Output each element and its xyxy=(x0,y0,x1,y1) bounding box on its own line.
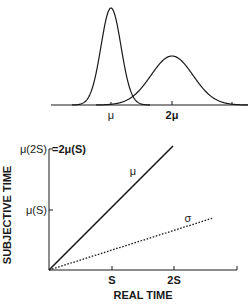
y-axis-label: SUBJECTIVE TIME xyxy=(1,166,13,264)
figure: μ 2μ μ σ μ(2S) =2μ(S) μ(S) S 2S REAL TIM… xyxy=(0,0,248,304)
sd-line xyxy=(49,218,213,270)
wide-gaussian-curve xyxy=(96,56,248,105)
x-tick-label-2s: 2S xyxy=(167,274,180,286)
mean-line-label: μ xyxy=(130,165,136,177)
bottom-panel: μ σ μ(2S) =2μ(S) μ(S) S 2S REAL TIME SUB… xyxy=(1,143,237,301)
x-tick-label-s: S xyxy=(108,274,115,286)
x-axis-label: REAL TIME xyxy=(113,289,172,301)
y-tick-label-top: μ(2S) xyxy=(20,143,47,155)
tick-label-2mu: 2μ xyxy=(166,109,179,121)
y-tick-label-top-eq: =2μ(S) xyxy=(52,143,86,155)
sd-line-label: σ xyxy=(185,212,192,224)
mean-line xyxy=(49,146,173,270)
tick-label-mu: μ xyxy=(108,109,114,121)
top-panel: μ 2μ xyxy=(51,8,248,121)
narrow-gaussian-curve xyxy=(72,8,150,105)
y-tick-label-mid: μ(S) xyxy=(26,204,47,216)
